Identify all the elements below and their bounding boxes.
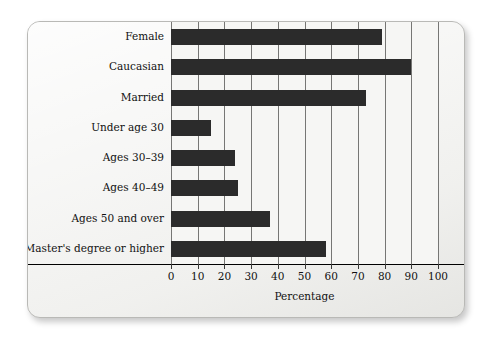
tick-label: 70: [351, 270, 364, 282]
bar-row: Married: [171, 83, 438, 113]
tick-mark-100: [438, 264, 439, 269]
bar-row: Ages 30–39: [171, 143, 438, 173]
bar: [171, 150, 235, 166]
category-label: Married: [121, 88, 164, 107]
bar: [171, 120, 211, 136]
bar: [171, 241, 326, 257]
tick-mark-30: [251, 264, 252, 269]
tick-mark-40: [278, 264, 279, 269]
category-label: Ages 40–49: [103, 178, 164, 197]
tick-mark-50: [305, 264, 306, 269]
tick-mark-80: [385, 264, 386, 269]
x-axis-title: Percentage: [171, 290, 438, 302]
tick-mark-60: [331, 264, 332, 269]
bar-row: Ages 40–49: [171, 173, 438, 203]
tick-label: 10: [191, 270, 204, 282]
tick-label: 80: [378, 270, 391, 282]
tick-label: 20: [218, 270, 231, 282]
x-axis-line-left-segment: [28, 264, 171, 265]
tick-label: 100: [428, 270, 448, 282]
bar: [171, 90, 366, 106]
category-label: Under age 30: [91, 118, 164, 137]
tick-label: 40: [271, 270, 284, 282]
tick-mark-90: [411, 264, 412, 269]
tick-label: 50: [298, 270, 311, 282]
chart-figure: FemaleCaucasianMarriedUnder age 30Ages 3…: [0, 0, 493, 344]
tick-label: 0: [168, 270, 175, 282]
chart-card: FemaleCaucasianMarriedUnder age 30Ages 3…: [27, 21, 465, 318]
bar-row: Female: [171, 22, 438, 52]
bar: [171, 180, 238, 196]
gridline-100: [438, 22, 439, 264]
tick-mark-20: [224, 264, 225, 269]
category-label: Master's degree or higher: [27, 239, 164, 258]
category-label: Ages 50 and over: [71, 209, 164, 228]
tick-mark-0: [171, 264, 172, 269]
bar: [171, 59, 411, 75]
category-label: Female: [125, 27, 164, 46]
bar-row: Ages 50 and over: [171, 204, 438, 234]
category-label: Ages 30–39: [103, 148, 164, 167]
tick-mark-70: [358, 264, 359, 269]
category-label: Caucasian: [109, 57, 164, 76]
tick-label: 90: [405, 270, 418, 282]
bar: [171, 29, 382, 45]
tick-label: 60: [325, 270, 338, 282]
bar: [171, 211, 270, 227]
tick-label: 30: [244, 270, 257, 282]
x-axis-line-right-segment: [438, 264, 464, 265]
bar-row: Master's degree or higher: [171, 234, 438, 264]
bar-row: Under age 30: [171, 113, 438, 143]
bar-row: Caucasian: [171, 52, 438, 82]
tick-mark-10: [198, 264, 199, 269]
